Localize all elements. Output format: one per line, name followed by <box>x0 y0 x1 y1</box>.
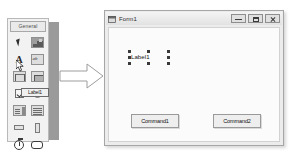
text-box-icon: ab <box>31 54 44 65</box>
vb-toolbox: General A ab <box>7 18 49 142</box>
hscrollbar-tool[interactable] <box>10 119 28 136</box>
timer-tool[interactable] <box>10 136 28 153</box>
form-label-control[interactable]: Label1 <box>131 53 167 62</box>
minimize-button[interactable] <box>231 14 246 23</box>
picturebox-tool[interactable] <box>28 34 46 51</box>
command1-button[interactable]: Command1 <box>131 114 179 128</box>
vscrollbar-tool[interactable] <box>28 119 46 136</box>
commandbutton-tool[interactable] <box>28 68 46 85</box>
toolbox-tab-general[interactable]: General <box>10 21 46 32</box>
list-box-icon <box>31 105 44 116</box>
command-button-icon <box>31 71 44 82</box>
timer-clock-icon <box>14 140 24 150</box>
selection-handle-sw[interactable] <box>128 62 131 65</box>
window-controls <box>231 14 280 23</box>
maximize-button[interactable] <box>248 14 263 23</box>
shape-tool[interactable] <box>28 136 46 153</box>
form-label-text: Label1 <box>131 54 150 60</box>
selection-handle-s[interactable] <box>147 62 150 65</box>
shape-rounded-rect-icon <box>31 141 43 149</box>
dragged-label-ghost: Label1 <box>21 88 49 97</box>
vertical-scrollbar-icon <box>35 123 40 133</box>
command2-button[interactable]: Command2 <box>213 114 261 128</box>
pointer-tool[interactable] <box>10 34 28 51</box>
frame-icon <box>13 71 26 82</box>
selection-handle-n[interactable] <box>147 50 150 53</box>
selection-handle-ne[interactable] <box>167 50 170 53</box>
close-button[interactable] <box>265 14 280 23</box>
form-title-text: Form1 <box>119 15 137 23</box>
panel-divider-bar <box>49 22 59 140</box>
form-window-icon <box>108 15 116 23</box>
horizontal-scrollbar-icon <box>14 125 24 130</box>
listbox-tool[interactable] <box>28 102 46 119</box>
selection-handle-nw[interactable] <box>128 50 131 53</box>
textbox-tool[interactable]: ab <box>28 51 46 68</box>
form-designer-window[interactable]: Form1 Label1 <box>104 10 284 146</box>
selection-handle-w[interactable] <box>128 56 131 59</box>
screenshot-root: General A ab <box>0 0 290 154</box>
flow-arrow-icon <box>59 62 104 90</box>
combobox-tool[interactable] <box>10 102 28 119</box>
selection-handle-se[interactable] <box>167 62 170 65</box>
selection-handle-e[interactable] <box>167 56 170 59</box>
pointer-arrow-icon <box>16 39 22 47</box>
form-design-surface[interactable]: Label1 Command1 Command2 <box>108 27 280 142</box>
picture-box-icon <box>31 37 44 48</box>
drag-cursor-icon <box>16 60 25 72</box>
combo-box-icon <box>13 105 26 116</box>
form-titlebar[interactable]: Form1 <box>106 12 282 25</box>
